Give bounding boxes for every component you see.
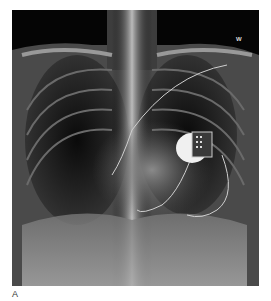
image-marker-w: W xyxy=(236,36,242,42)
chest-xray-image xyxy=(12,10,259,286)
panel-label: A xyxy=(12,289,18,299)
